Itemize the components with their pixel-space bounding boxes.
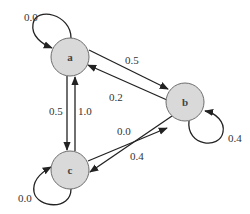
node-c: c: [51, 151, 89, 189]
node-label-b: b: [182, 96, 188, 108]
edge-label-a-c: 0.5: [49, 105, 63, 117]
edge-b-c: [90, 116, 172, 172]
edge-label-b-b: 0.4: [228, 132, 242, 144]
edge-label-c-b: 0.0: [117, 125, 131, 137]
edge-label-a-b: 0.5: [125, 54, 139, 66]
edge-label-c-a: 1.0: [78, 105, 92, 117]
edge-label-b-a: 0.2: [109, 91, 123, 103]
node-label-c: c: [68, 164, 73, 176]
node-a: a: [51, 38, 89, 76]
node-label-a: a: [67, 51, 73, 63]
state-diagram: 0.0 0.5 0.2 0.5 1.0 0.0 0.4 0.4 0.0 a b …: [0, 0, 250, 214]
node-b: b: [166, 83, 204, 121]
edge-label-c-c: 0.0: [18, 192, 32, 204]
edge-label-a-a: 0.0: [24, 11, 38, 23]
edge-label-b-c: 0.4: [130, 150, 144, 162]
